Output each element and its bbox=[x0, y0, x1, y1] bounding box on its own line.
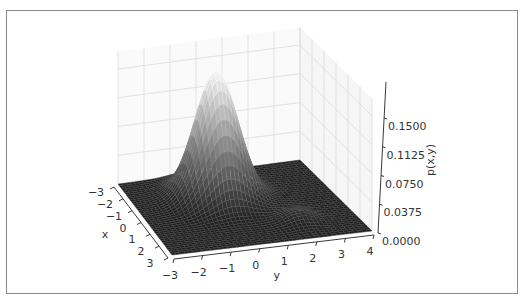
y-tick-mark bbox=[344, 238, 345, 242]
z-tick-label: 0.1500 bbox=[388, 120, 427, 133]
y-tick-label: 4 bbox=[367, 245, 374, 258]
z-tick-label: 0.1125 bbox=[387, 149, 426, 162]
x-tick-label: 1 bbox=[129, 233, 136, 246]
surface-plot: −3−2−10123x−3−2−101234y0.00000.03750.075… bbox=[0, 0, 526, 305]
x-tick-label: 0 bbox=[120, 222, 127, 235]
x-tick-label: 2 bbox=[138, 245, 145, 258]
z-tick-label: 0.0750 bbox=[385, 178, 424, 191]
y-tick-mark bbox=[287, 245, 288, 249]
z-tick-mark bbox=[378, 233, 381, 234]
y-tick-mark bbox=[373, 235, 374, 239]
z-axis-label: p(x,y) bbox=[424, 144, 437, 176]
x-axis-label: x bbox=[102, 228, 109, 241]
x-tick-mark bbox=[146, 234, 150, 236]
x-tick-label: 3 bbox=[147, 257, 154, 270]
y-tick-label: 3 bbox=[338, 248, 345, 261]
y-tick-mark bbox=[230, 252, 231, 256]
z-tick-mark bbox=[381, 176, 384, 177]
x-tick-mark bbox=[137, 223, 141, 225]
z-tick-mark bbox=[384, 118, 387, 119]
y-tick-label: −2 bbox=[190, 266, 206, 279]
z-tick-label: 0.0000 bbox=[382, 235, 421, 248]
x-tick-mark bbox=[164, 258, 168, 260]
y-tick-mark bbox=[316, 242, 317, 246]
x-tick-mark bbox=[110, 187, 114, 189]
x-tick-mark bbox=[119, 199, 123, 201]
y-tick-label: 1 bbox=[281, 255, 288, 268]
y-tick-label: 0 bbox=[252, 259, 259, 272]
y-tick-mark bbox=[173, 259, 174, 263]
y-tick-label: −1 bbox=[219, 262, 235, 275]
z-tick-label: 0.0375 bbox=[384, 206, 423, 219]
y-tick-mark bbox=[259, 249, 260, 253]
z-tick-mark bbox=[383, 147, 386, 148]
z-tick-mark bbox=[380, 204, 383, 205]
x-tick-mark bbox=[155, 246, 159, 248]
y-tick-label: −3 bbox=[162, 269, 178, 282]
x-tick-mark bbox=[128, 211, 132, 213]
y-tick-mark bbox=[202, 256, 203, 260]
y-tick-label: 2 bbox=[309, 252, 316, 265]
y-axis-label: y bbox=[274, 269, 281, 282]
